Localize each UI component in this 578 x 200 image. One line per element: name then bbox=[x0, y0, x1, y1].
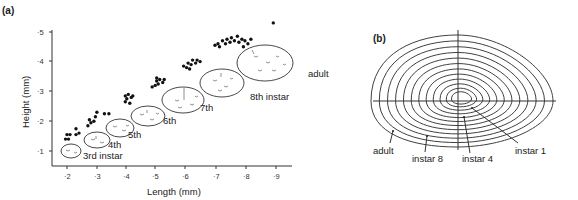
growth-contour bbox=[426, 74, 497, 117]
y-tick-label: ·4 bbox=[37, 57, 44, 66]
y-ticks: ·1 ·2 ·3 ·4 ·5 bbox=[37, 28, 52, 156]
data-point bbox=[95, 111, 98, 114]
shell-8th-instar bbox=[200, 69, 244, 97]
y-tick-label: ·3 bbox=[37, 87, 44, 96]
label-6th: 6th bbox=[163, 115, 176, 126]
y-tick-label: ·2 bbox=[37, 117, 44, 126]
growth-contour bbox=[388, 47, 537, 138]
label-7th: 7th bbox=[200, 102, 213, 113]
data-point bbox=[228, 41, 231, 44]
data-point bbox=[182, 64, 185, 67]
x-tick-label: ·3 bbox=[94, 172, 101, 181]
shell-3rd-instar bbox=[61, 144, 81, 158]
data-point bbox=[67, 137, 70, 140]
data-point bbox=[237, 41, 240, 44]
label-adult: adult bbox=[308, 68, 329, 79]
data-point bbox=[131, 94, 134, 97]
x-tick-label: ·9 bbox=[273, 172, 280, 181]
data-point bbox=[163, 78, 166, 81]
data-point bbox=[107, 112, 110, 115]
x-tick-label: ·8 bbox=[243, 172, 250, 181]
shell-4th bbox=[84, 132, 110, 148]
data-point bbox=[92, 120, 95, 123]
data-point bbox=[86, 124, 89, 127]
x-tick-label: ·5 bbox=[152, 172, 159, 181]
data-point bbox=[224, 42, 227, 45]
data-point bbox=[195, 58, 198, 61]
data-point bbox=[243, 39, 246, 42]
growth-contour bbox=[452, 92, 472, 104]
label-4th: 4th bbox=[108, 139, 121, 150]
data-point bbox=[103, 112, 106, 115]
label-instar-4: instar 4 bbox=[462, 153, 493, 164]
growth-contours bbox=[371, 35, 553, 147]
data-point bbox=[240, 38, 243, 41]
label-instar-1: instar 1 bbox=[515, 145, 546, 156]
instar-4-leader bbox=[464, 117, 470, 153]
label-adult-b: adult bbox=[373, 145, 394, 156]
data-point bbox=[230, 36, 233, 39]
data-point bbox=[128, 102, 131, 105]
data-point bbox=[74, 133, 77, 136]
x-tick-label: ·7 bbox=[213, 172, 220, 181]
x-axis-title: Length (mm) bbox=[147, 186, 201, 197]
panel-b: (b) adult instar 8 instar 4 instar 1 bbox=[371, 30, 556, 164]
data-point bbox=[188, 67, 191, 70]
data-point bbox=[233, 39, 236, 42]
label-8th-instar: 8th instar bbox=[250, 91, 289, 102]
data-point bbox=[216, 42, 219, 45]
data-point bbox=[225, 38, 228, 41]
data-point bbox=[89, 121, 92, 124]
data-point bbox=[94, 115, 97, 118]
y-tick-label: ·1 bbox=[37, 147, 44, 156]
data-point bbox=[158, 78, 161, 81]
y-axis-title: Height (mm) bbox=[20, 76, 31, 128]
data-point bbox=[249, 38, 252, 41]
data-point bbox=[74, 127, 77, 130]
y-tick-label: ·5 bbox=[37, 28, 44, 37]
data-point bbox=[64, 137, 67, 140]
data-point bbox=[185, 66, 188, 69]
label-instar-8: instar 8 bbox=[412, 153, 443, 164]
data-point bbox=[272, 21, 275, 24]
data-point bbox=[124, 94, 127, 97]
data-point bbox=[155, 79, 158, 82]
shell-adult bbox=[237, 45, 293, 81]
data-point bbox=[154, 84, 157, 87]
data-point bbox=[77, 131, 80, 134]
panel-a: (a) ·1 ·2 ·3 ·4 ·5 ·2 ·3 ·4 ·5 ·6 ·7 ·8 … bbox=[2, 5, 329, 197]
data-point bbox=[191, 58, 194, 61]
x-tick-label: ·2 bbox=[64, 172, 71, 181]
data-point bbox=[189, 63, 192, 66]
data-point bbox=[125, 97, 128, 100]
data-point bbox=[221, 39, 224, 42]
data-point bbox=[127, 93, 130, 96]
data-point bbox=[65, 133, 68, 136]
data-point bbox=[157, 82, 160, 85]
data-point bbox=[161, 81, 164, 84]
data-point bbox=[246, 42, 249, 45]
data-point bbox=[242, 45, 245, 48]
data-point bbox=[88, 118, 91, 121]
label-3rd-instar: 3rd instar bbox=[83, 150, 123, 161]
x-tick-label: ·6 bbox=[182, 172, 189, 181]
label-5th: 5th bbox=[128, 129, 141, 140]
data-point bbox=[218, 45, 221, 48]
data-point bbox=[194, 61, 197, 64]
panel-a-label: (a) bbox=[2, 5, 14, 16]
data-point bbox=[236, 35, 239, 38]
data-point bbox=[124, 100, 127, 103]
shell-7th bbox=[162, 87, 204, 113]
data-point bbox=[151, 85, 154, 88]
instar-8-leader bbox=[425, 136, 427, 152]
panel-b-label: (b) bbox=[373, 33, 386, 44]
data-point bbox=[213, 44, 216, 47]
data-point bbox=[155, 76, 158, 79]
data-point bbox=[186, 61, 189, 64]
x-tick-label: ·4 bbox=[123, 172, 130, 181]
data-point bbox=[68, 133, 71, 136]
figure: (a) ·1 ·2 ·3 ·4 ·5 ·2 ·3 ·4 ·5 ·6 ·7 ·8 … bbox=[0, 0, 578, 200]
data-point bbox=[198, 60, 201, 63]
shell-6th bbox=[131, 106, 165, 126]
x-ticks: ·2 ·3 ·4 ·5 ·6 ·7 ·8 ·9 bbox=[64, 166, 280, 181]
